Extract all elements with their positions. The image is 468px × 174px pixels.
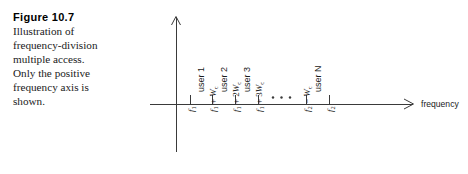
ellipsis-dots [272,96,291,98]
tick-label: f2 − Wc [302,86,313,112]
vertical-axis [172,17,181,153]
fdma-spectrum-diagram: frequency user 1 user 2 user 3 user N f1 [0,0,468,174]
user-label: user 1 [196,67,206,92]
tick-label: f1 [186,106,197,112]
tick-label: f1 + 2Wc [231,82,242,112]
user-label: user N [313,65,323,92]
tick-label: f2 [325,106,336,112]
tick-label: f1 + Wc [208,86,219,112]
user-label: user 3 [242,67,252,92]
user-label: user 2 [219,67,229,92]
tick-label: f1 + 3Wc [254,82,265,112]
x-axis-label: frequency [421,99,459,109]
